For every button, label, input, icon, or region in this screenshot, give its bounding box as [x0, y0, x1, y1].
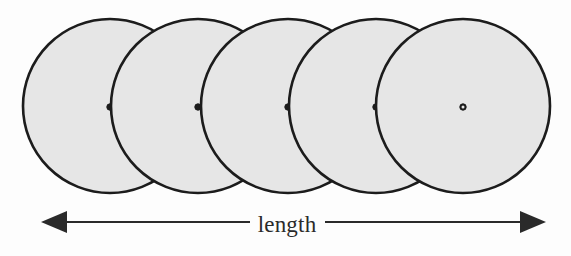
arrow-head-left-icon [41, 211, 67, 233]
circle-center-dot-inner-5 [462, 106, 465, 109]
circle-5 [376, 19, 550, 193]
circle-group [23, 19, 550, 193]
figure-canvas: length [0, 0, 571, 256]
arrow-head-right-icon [520, 211, 546, 233]
dimension-label-length: length [258, 213, 317, 236]
